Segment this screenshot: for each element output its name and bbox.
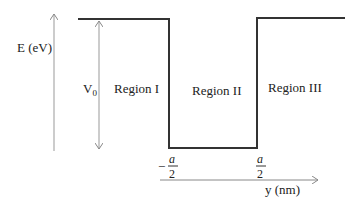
region-3-label: Region III [268, 80, 322, 95]
region-2-label: Region II [192, 83, 241, 98]
svg-text:2: 2 [257, 167, 263, 181]
svg-text:a: a [169, 152, 175, 166]
region-1-label: Region I [114, 81, 159, 96]
energy-axis-label: E (eV) [17, 40, 52, 55]
potential-well-diagram: E (eV) V0 Region I Region II Region III … [0, 0, 362, 209]
barrier-height-label: V0 [83, 81, 97, 98]
position-axis-label: y (nm) [265, 182, 300, 197]
svg-text:2: 2 [169, 167, 175, 181]
left-boundary-label: − a 2 [158, 152, 178, 181]
right-boundary-label: a 2 [256, 152, 266, 181]
svg-text:−: − [158, 159, 165, 174]
svg-text:a: a [257, 152, 263, 166]
